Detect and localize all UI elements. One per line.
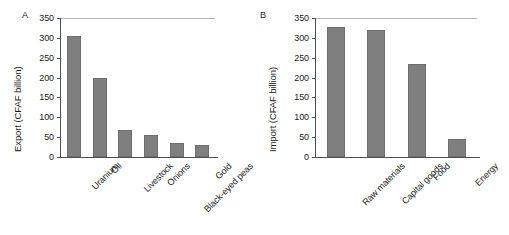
y-tick-mark [312,58,315,59]
x-tick-label: Raw materials [360,161,406,207]
x-tick-label: Energy [473,161,500,188]
y-tick-label: 350 [24,13,54,23]
y-tick-label: 50 [24,132,54,142]
panel-b-baseline [315,157,480,158]
y-tick-label: 250 [279,53,309,63]
y-tick-mark [312,97,315,98]
y-tick-label: 150 [24,92,54,102]
y-tick-mark [57,18,60,19]
bar [170,143,184,157]
y-tick-label: 50 [279,132,309,142]
panel-a-plot-area [61,18,215,157]
y-tick-label: 0 [279,152,309,162]
panel-b-plot-area [316,18,477,157]
y-tick-mark [57,117,60,118]
bar [195,145,209,157]
y-tick-label: 100 [24,112,54,122]
panel-a-y-axis-title: Export (CFAF billion) [12,66,23,152]
y-tick-label: 300 [279,33,309,43]
bar [93,78,107,157]
y-tick-label: 150 [279,92,309,102]
y-tick-mark [57,58,60,59]
bar [144,135,158,157]
panel-b: B Import (CFAF billion) 0501001502002503… [255,0,509,235]
y-tick-mark [312,38,315,39]
y-tick-mark [312,137,315,138]
panel-b-y-axis-title: Import (CFAF billion) [267,67,278,152]
y-tick-mark [312,157,315,158]
y-tick-mark [57,157,60,158]
y-tick-label: 350 [279,13,309,23]
panel-b-letter: B [260,10,266,20]
y-tick-mark [57,97,60,98]
panel-a-baseline [60,157,218,158]
y-tick-mark [312,78,315,79]
bar [327,27,345,157]
y-tick-label: 200 [279,73,309,83]
bar [367,30,385,157]
y-tick-mark [312,117,315,118]
figure-bar-charts: A Export (CFAF billion) 0501001502002503… [0,0,509,235]
y-tick-mark [57,78,60,79]
y-tick-label: 300 [24,33,54,43]
y-tick-label: 0 [24,152,54,162]
y-tick-label: 250 [24,53,54,63]
bar [408,64,426,157]
y-tick-mark [57,38,60,39]
y-tick-label: 200 [24,73,54,83]
y-tick-mark [57,137,60,138]
bar [118,130,132,157]
bar [67,36,81,157]
y-tick-label: 100 [279,112,309,122]
panel-a: A Export (CFAF billion) 0501001502002503… [0,0,255,235]
y-tick-mark [312,18,315,19]
bar [448,139,466,157]
